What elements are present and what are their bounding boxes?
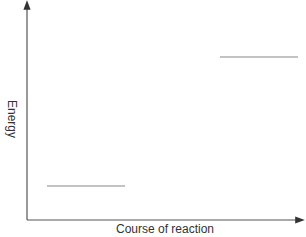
y-axis-label: Energy: [5, 99, 19, 139]
energy-diagram: [0, 0, 306, 237]
x-axis-label: Course of reaction: [0, 222, 306, 236]
